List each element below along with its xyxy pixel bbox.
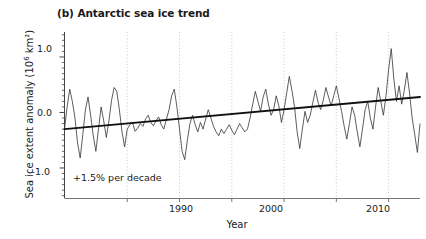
data-series-line [65,49,421,160]
y-axis-label-main: Sea ice extent anomaly (10 [24,61,35,199]
figure-panel-b: (b) Antarctic sea ice trend Sea ice exte… [0,0,426,239]
gridlines [127,32,388,199]
trend-annotation: +1.5% per decade [73,172,162,183]
y-tick-label-0: 0.0 [24,107,52,118]
y-tick-label-1: 1.0 [24,43,52,54]
y-axis-ticks [60,35,65,196]
x-tick-label-1990: 1990 [161,203,201,214]
title-text: Antarctic sea ice trend [77,7,209,19]
x-axis-label: Year [0,219,426,230]
x-tick-label-2010: 2010 [358,203,398,214]
trend-line [65,97,421,129]
page-title: (b) Antarctic sea ice trend [57,7,210,19]
x-axis-ticks [127,199,388,203]
x-axis-label-text: Year [226,219,247,230]
panel-letter: (b) [57,7,74,19]
y-axis-label-exponent: 6 [23,56,31,60]
y-tick-label-neg1: -1.0 [22,166,50,177]
x-tick-label-2000: 2000 [251,203,291,214]
